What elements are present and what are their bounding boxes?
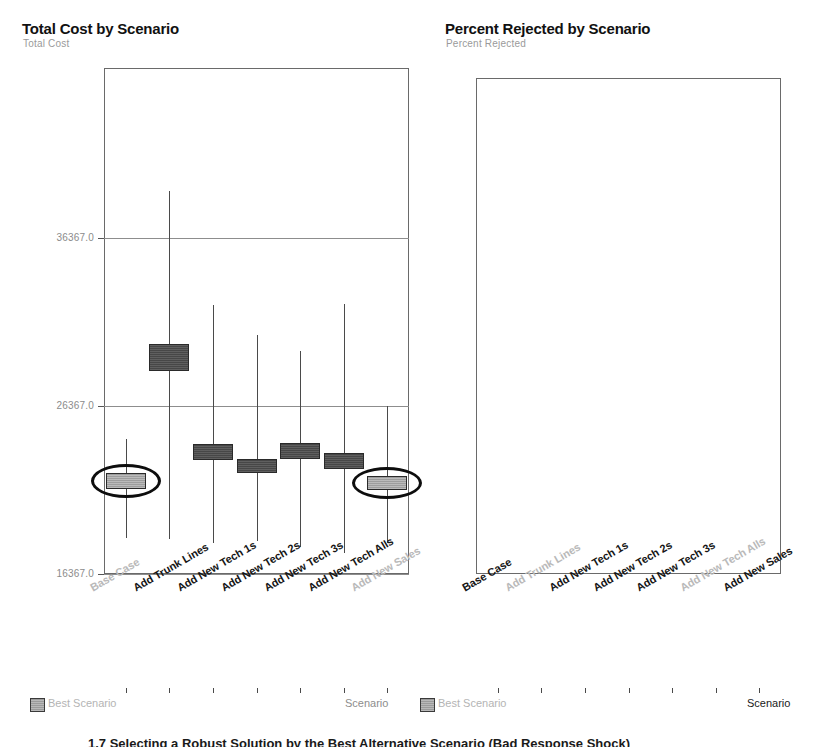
gridline [104,238,409,239]
best-scenario-highlight-ellipse [91,464,161,498]
x-tick-mark [300,688,301,693]
x-tick-mark [672,688,673,693]
whisker-line [257,335,258,541]
plot-area-percent-rejected[interactable] [476,78,781,574]
best-scenario-highlight-ellipse [352,467,422,499]
scenario-box[interactable] [280,443,320,459]
x-tick-mark [344,688,345,693]
x-tick-mark [498,688,499,693]
legend-label-best-scenario: Best Scenario [48,697,116,709]
chart-panel-percent-rejected: Percent Rejected by Scenario Percent Rej… [420,0,818,747]
y-tick-label: 26367.0 [28,400,94,411]
x-tick-mark [541,688,542,693]
x-tick-mark [759,688,760,693]
scenario-box[interactable] [149,344,189,371]
x-tick-mark [257,688,258,693]
x-tick-mark [585,688,586,693]
chart-subtitle-total-cost: Total Cost [23,38,69,49]
y-tick-label: 16367.0 [28,568,94,579]
y-tick-label: 36367.0 [28,232,94,243]
x-tick-mark [629,688,630,693]
x-tick-mark [213,688,214,693]
x-axis-title-total-cost: Scenario [345,697,388,709]
whisker-line [344,304,345,553]
y-tick-mark [98,238,104,239]
x-tick-mark [716,688,717,693]
scenario-box[interactable] [193,444,233,460]
legend-swatch-best-scenario [420,698,435,712]
x-tick-mark [169,688,170,693]
x-tick-mark [387,688,388,693]
x-axis-title-percent-rejected: Scenario [747,697,790,709]
scenario-box[interactable] [324,453,364,469]
whisker-line [213,305,214,543]
figure-caption: 1.7 Selecting a Robust Solution by the B… [88,736,630,747]
legend-label-best-scenario: Best Scenario [438,697,506,709]
x-tick-mark [126,688,127,693]
chart-title-total-cost: Total Cost by Scenario [22,20,179,37]
y-tick-mark [98,406,104,407]
scenario-box[interactable] [237,459,277,473]
legend-swatch-best-scenario [30,698,45,712]
chart-subtitle-percent-rejected: Percent Rejected [446,38,526,49]
chart-title-percent-rejected: Percent Rejected by Scenario [445,20,650,37]
chart-panel-total-cost: Total Cost by Scenario Total Cost 36367.… [0,0,420,747]
